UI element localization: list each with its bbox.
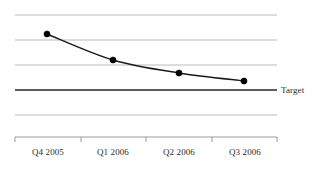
chart-canvas: Q4 2005Q1 2006Q2 2006Q3 2006 Target xyxy=(0,0,326,176)
data-point-marker xyxy=(176,70,182,76)
data-point-marker xyxy=(110,57,116,63)
data-point-marker xyxy=(241,78,247,84)
x-axis-tick-label: Q4 2005 xyxy=(32,147,64,157)
x-axis-tick-label: Q3 2006 xyxy=(229,147,261,157)
x-axis-tick-label: Q2 2006 xyxy=(163,147,195,157)
target-line-label: Target xyxy=(281,85,305,95)
line-chart-figure: Q4 2005Q1 2006Q2 2006Q3 2006 Target xyxy=(0,0,326,176)
data-point-marker xyxy=(44,31,50,37)
x-axis-tick-label: Q1 2006 xyxy=(97,147,129,157)
